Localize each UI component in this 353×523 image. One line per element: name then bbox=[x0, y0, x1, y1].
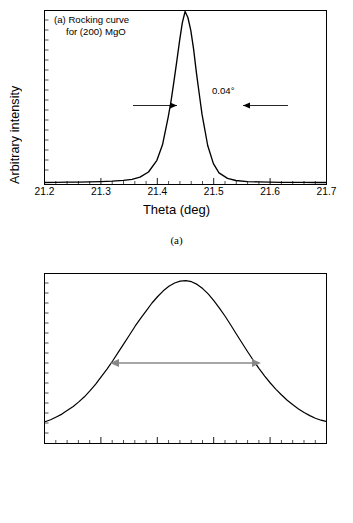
x-tick-a-4: 21.6 bbox=[260, 186, 280, 197]
figure-panel-b: Arbitrary intensity (b) Rocking curve fo… bbox=[0, 258, 353, 523]
fwhm-annotation-a: 0.04° bbox=[212, 85, 235, 96]
plot-area-a: Arbitrary intensity (a) Rocking curve fo… bbox=[0, 0, 353, 200]
plot-frame-b bbox=[45, 274, 327, 444]
figure-subcaption-a: (a) bbox=[0, 234, 353, 246]
plot-area-b: Arbitrary intensity (b) Rocking curve fo… bbox=[0, 258, 353, 448]
x-tick-a-3: 21.5 bbox=[204, 186, 224, 197]
x-tick-a-5: 21.7 bbox=[317, 186, 337, 197]
rocking-curve-plot-b bbox=[0, 258, 353, 458]
x-tick-a-1: 21.3 bbox=[91, 186, 111, 197]
x-tick-a-2: 21.4 bbox=[147, 186, 167, 197]
plot-title-a-line2: for (200) MgO bbox=[54, 26, 129, 38]
x-tick-a-0: 21.2 bbox=[35, 186, 55, 197]
y-axis-label-a: Arbitrary intensity bbox=[8, 24, 22, 184]
rocking-curve-plot-a bbox=[0, 0, 353, 200]
plot-title-a: (a) Rocking curve for (200) MgO bbox=[54, 14, 129, 37]
figure-panel-a: Arbitrary intensity (a) Rocking curve fo… bbox=[0, 0, 353, 262]
plot-title-a-line1: (a) Rocking curve bbox=[54, 14, 129, 25]
x-axis-label-a: Theta (deg) bbox=[0, 202, 353, 217]
